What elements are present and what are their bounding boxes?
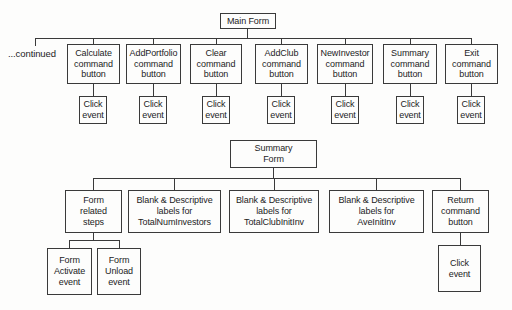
- node-return-click-event: Click event: [438, 245, 481, 292]
- node-labels-aveinitinv: Blank & Descriptive labels for AveInitIn…: [329, 190, 424, 233]
- node-main-form: Main Form: [220, 13, 276, 29]
- connector-return-drop: [460, 233, 461, 245]
- connector-stub: [345, 84, 346, 96]
- connector-stub: [471, 84, 472, 96]
- connector-mainform-drop: [247, 29, 248, 38]
- node-click-event: Click event: [139, 96, 167, 124]
- continued-label: ...continued: [8, 48, 56, 59]
- connector-summary-bus: [93, 178, 461, 179]
- node-form-unload-event: Form Unload event: [97, 248, 141, 295]
- node-exit-command-button: Exit command button: [445, 44, 498, 84]
- node-click-event: Click event: [396, 96, 424, 124]
- node-return-command-button: Return command button: [432, 190, 489, 233]
- node-form-activate-event: Form Activate event: [47, 248, 92, 295]
- node-click-event: Click event: [202, 96, 230, 124]
- connector-stub: [376, 178, 377, 190]
- node-click-event: Click event: [457, 96, 485, 124]
- connector-stub: [460, 178, 461, 190]
- connector-main-bus: [35, 38, 472, 39]
- node-addportfolio-command-button: AddPortfolio command button: [126, 44, 181, 84]
- node-calculate-command-button: Calculate command button: [67, 44, 120, 84]
- connector-stub: [174, 178, 175, 190]
- node-newinvestor-command-button: NewInvestor command button: [317, 44, 373, 84]
- connector-continued-stub: [35, 38, 36, 46]
- node-click-event: Click event: [267, 96, 295, 124]
- connector-formsteps-drop: [93, 233, 94, 240]
- node-click-event: Click event: [331, 96, 359, 124]
- node-clear-command-button: Clear command button: [190, 44, 242, 84]
- node-labels-totalnuminvestors: Blank & Descriptive labels for TotalNumI…: [128, 190, 221, 233]
- connector-stub: [69, 240, 70, 248]
- connector-formsteps-bus: [69, 240, 120, 241]
- hierarchy-chart: Main Form ...continued Calculate command…: [0, 0, 512, 310]
- connector-stub: [274, 178, 275, 190]
- node-form-related-steps: Form related steps: [65, 190, 122, 233]
- connector-stub: [216, 84, 217, 96]
- connector-summaryform-drop: [273, 168, 274, 178]
- connector-stub: [93, 84, 94, 96]
- connector-stub: [281, 84, 282, 96]
- node-summary-form: Summary Form: [230, 140, 317, 168]
- node-labels-totalclubinitinv: Blank & Descriptive labels for TotalClub…: [229, 190, 319, 233]
- connector-stub: [153, 84, 154, 96]
- node-click-event: Click event: [79, 96, 107, 124]
- node-summary-command-button: Summary command button: [383, 44, 437, 84]
- node-addclub-command-button: AddClub command button: [255, 44, 308, 84]
- connector-stub: [93, 178, 94, 190]
- connector-stub: [410, 84, 411, 96]
- connector-stub: [119, 240, 120, 248]
